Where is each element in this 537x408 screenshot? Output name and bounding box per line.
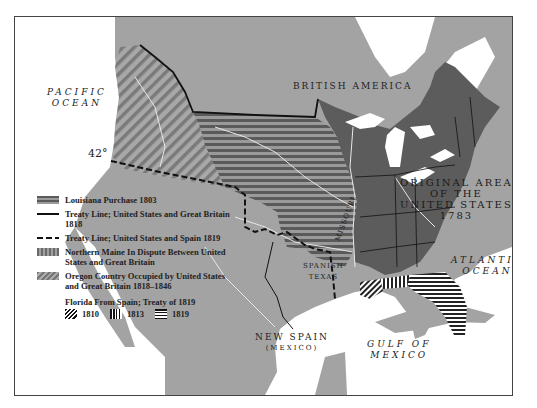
- label-spanish-texas-line1: SPANISH: [303, 261, 344, 272]
- label-gulf-line1: GULF OF: [367, 339, 431, 350]
- label-spanish-texas: SPANISH TEXAS: [303, 261, 344, 283]
- legend-florida: Florida From Spain; Treaty of 1819 1810 …: [37, 297, 237, 319]
- legend-item-northern-maine: Northern Maine In Dispute Between United…: [37, 247, 237, 267]
- label-original-area-line3: UNITED STATES: [400, 199, 513, 210]
- label-pacific-ocean-line1: PACIFIC: [47, 87, 107, 98]
- label-latitude-42: 42°: [88, 148, 108, 159]
- label-gulf-line2: MEXICO: [367, 350, 431, 361]
- map-frame: PACIFIC OCEAN BRITISH AMERICA 42° ORIGIN…: [14, 16, 513, 396]
- label-atlantic-ocean-line2: OCEAN: [451, 266, 513, 277]
- legend-label: Northern Maine In Dispute Between United…: [65, 247, 226, 267]
- legend-label: Louisiana Purchase 1803: [65, 195, 157, 205]
- florida-year-1819: 1819: [172, 309, 189, 319]
- label-original-area-line1: ORIGINAL AREA: [400, 177, 513, 188]
- label-mexico: (MEXICO): [255, 343, 329, 354]
- legend-item-louisiana: Louisiana Purchase 1803: [37, 195, 237, 205]
- label-atlantic-ocean: ATLANTIC OCEAN: [451, 255, 513, 277]
- florida-1810-swatch-icon: [65, 309, 77, 319]
- label-original-area-line2: OF THE: [400, 188, 513, 199]
- oregon-swatch-icon: [37, 272, 59, 280]
- legend-label: Oregon Country Occupied by United States…: [65, 271, 225, 291]
- florida-legend-title: Florida From Spain; Treaty of 1819: [65, 297, 237, 307]
- label-british-america: BRITISH AMERICA: [293, 81, 412, 92]
- legend-item-treaty-1818: Treaty Line; United States and Great Bri…: [37, 209, 237, 229]
- legend-item-treaty-1819: Treaty Line; United States and Spain 181…: [37, 233, 237, 243]
- maine-swatch-icon: [37, 248, 59, 256]
- label-gulf-of-mexico: GULF OF MEXICO: [367, 339, 431, 361]
- solid-line-icon: [37, 213, 59, 215]
- florida-1819-swatch-icon: [155, 309, 167, 319]
- legend-label: Treaty Line; United States and Spain 181…: [65, 233, 220, 243]
- label-original-area-line4: 1783: [400, 210, 513, 221]
- label-new-spain: NEW SPAIN (MEXICO): [255, 332, 329, 354]
- legend-item-oregon-country: Oregon Country Occupied by United States…: [37, 271, 237, 291]
- map-legend: Louisiana Purchase 1803 Treaty Line; Uni…: [37, 195, 237, 323]
- label-atlantic-ocean-line1: ATLANTIC: [451, 255, 513, 266]
- florida-1810: [360, 279, 383, 299]
- label-pacific-ocean: PACIFIC OCEAN: [47, 87, 107, 109]
- louisiana-swatch-icon: [37, 196, 59, 204]
- legend-label: Treaty Line; United States and Great Bri…: [65, 209, 230, 229]
- label-pacific-ocean-line2: OCEAN: [47, 98, 107, 109]
- label-spanish-texas-line2: TEXAS: [303, 272, 344, 283]
- label-original-area: ORIGINAL AREA OF THE UNITED STATES 1783: [400, 177, 513, 221]
- label-new-spain-line1: NEW SPAIN: [255, 332, 329, 343]
- florida-year-1813: 1813: [127, 309, 144, 319]
- florida-year-1810: 1810: [82, 309, 99, 319]
- florida-1813-swatch-icon: [110, 309, 122, 319]
- dashed-line-icon: [37, 237, 59, 239]
